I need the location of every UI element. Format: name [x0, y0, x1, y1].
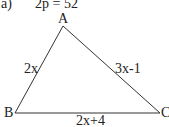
side-ac-label: 3x-1: [115, 62, 141, 76]
side-bc-label: 2x+4: [76, 114, 105, 127]
vertex-a-label: A: [58, 12, 68, 26]
vertex-b-label: B: [4, 106, 13, 120]
side-ab-label: 2x: [24, 62, 38, 76]
vertex-c-label: C: [161, 106, 169, 120]
